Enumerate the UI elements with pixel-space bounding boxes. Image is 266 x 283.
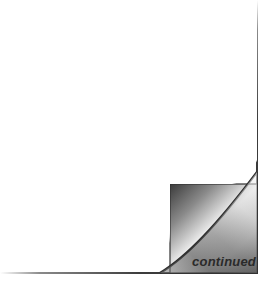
continued-label: continued: [190, 254, 256, 270]
continued-page-graphic: continued: [0, 0, 266, 283]
page-curl-icon: [0, 0, 266, 283]
